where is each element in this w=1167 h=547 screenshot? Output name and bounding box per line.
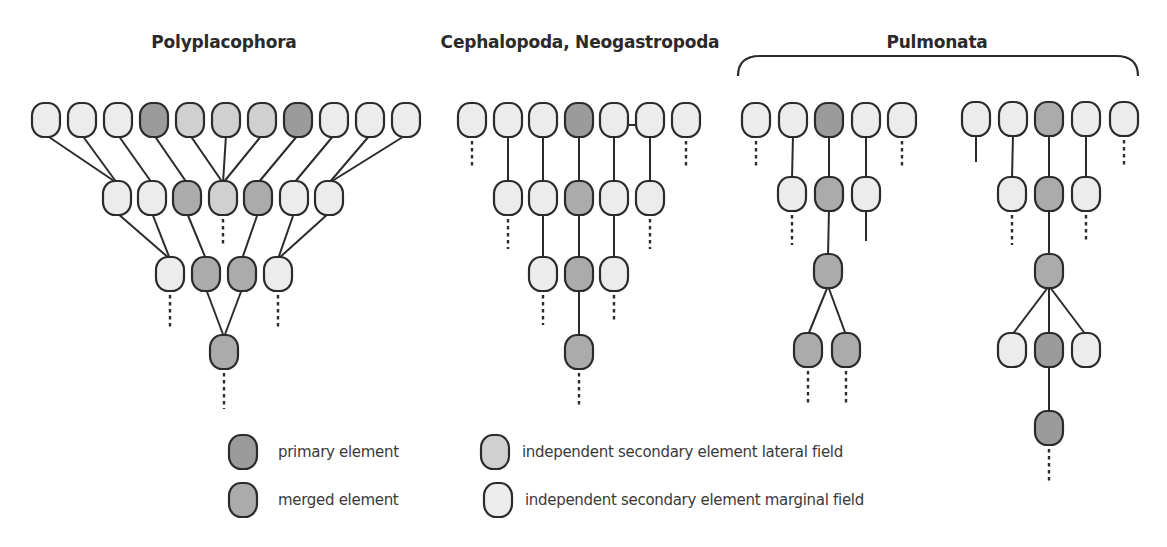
node-marginal-element [529,181,557,215]
diagram-canvas [0,0,1167,547]
node-marginal-element [68,103,96,137]
node-marginal-element [778,177,806,211]
node-marginal-element [138,181,166,215]
node-marginal-element [962,102,990,136]
legend-label-lateral: independent secondary element lateral fi… [522,443,843,461]
node-marginal-element [1072,333,1100,367]
legend-label-marginal: independent secondary element marginal f… [525,491,864,509]
node-primary-element [815,103,843,137]
node-merged-element [1035,177,1063,211]
node-marginal-element [672,103,700,137]
node-merged-element [565,181,593,215]
connector-line [1049,286,1086,335]
node-merged-element [565,335,593,369]
node-merged-element [832,333,860,367]
legend-label-primary: primary element [278,443,399,461]
title-polyplacophora: Polyplacophora [151,32,296,52]
node-lateral-element [212,103,240,137]
node-marginal-element [156,257,184,291]
connector-line [828,209,829,256]
legend-label-merged: merged element [278,491,398,509]
connector-line [224,289,242,337]
legend-swatch-lateral [481,435,509,469]
connector-line [329,135,406,183]
brace-line [738,56,1138,76]
node-marginal-element [356,103,384,137]
node-merged-element [228,257,256,291]
node-primary-element [284,103,312,137]
connector-line [258,135,298,183]
node-marginal-element [529,257,557,291]
node-primary-element [565,103,593,137]
node-merged-element [814,254,842,288]
connector-line [329,135,370,183]
connector-line [242,213,258,259]
node-lateral-element [176,103,204,137]
node-marginal-element [999,102,1027,136]
node-merged-element [794,333,822,367]
node-merged-element [565,257,593,291]
node-marginal-element [742,103,770,137]
node-marginal-element [852,103,880,137]
title-cephalopoda-neogastropoda: Cephalopoda, Neogastropoda [441,32,720,52]
node-marginal-element [494,181,522,215]
node-merged-element [173,181,201,215]
node-merged-element [1035,254,1063,288]
connector-line [828,286,846,335]
node-marginal-element [600,103,628,137]
node-marginal-element [32,103,60,137]
legend-swatch-merged [229,483,257,517]
connector-line [154,135,187,183]
node-marginal-element [103,181,131,215]
node-marginal-element [315,181,343,215]
node-marginal-element [320,103,348,137]
connector-line [1012,134,1013,179]
element-nodes [32,102,1138,445]
node-marginal-element [852,177,880,211]
node-marginal-element [888,103,916,137]
connector-line [223,135,262,183]
node-merged-element [192,257,220,291]
node-marginal-element [998,333,1026,367]
connector-line [294,135,334,183]
legend-swatch-primary [229,435,257,469]
connector-line [206,289,224,337]
node-merged-element [244,181,272,215]
connector-line [187,213,206,259]
connector-lines [46,125,1124,483]
node-marginal-element [1072,102,1100,136]
node-marginal-element [1072,177,1100,211]
connector-line [792,135,793,179]
node-marginal-element [392,103,420,137]
node-marginal-element [1110,102,1138,136]
node-marginal-element [280,181,308,215]
node-marginal-element [600,257,628,291]
node-marginal-element [494,103,522,137]
pulmonata-brace [738,56,1138,76]
node-marginal-element [458,103,486,137]
connector-line [118,135,152,183]
node-marginal-element [264,257,292,291]
connector-line [1012,286,1049,335]
node-primary-element [140,103,168,137]
node-merged-element [815,177,843,211]
node-marginal-element [529,103,557,137]
node-lateral-element [248,103,276,137]
connector-line [190,135,223,183]
node-marginal-element [600,181,628,215]
node-merged-element [1035,102,1063,136]
node-merged-element [210,335,238,369]
connector-line [82,135,117,183]
shell-plate-diagram: Polyplacophora Cephalopoda, Neogastropod… [0,0,1167,547]
node-marginal-element [998,177,1026,211]
connector-line [223,135,226,183]
node-lateral-element [209,181,237,215]
node-marginal-element [104,103,132,137]
title-pulmonata: Pulmonata [886,32,987,52]
connector-line [46,135,117,183]
connector-line [808,286,828,335]
node-marginal-element [636,103,664,137]
node-marginal-element [636,181,664,215]
node-primary-element [1035,333,1063,367]
node-primary-element [1035,411,1063,445]
